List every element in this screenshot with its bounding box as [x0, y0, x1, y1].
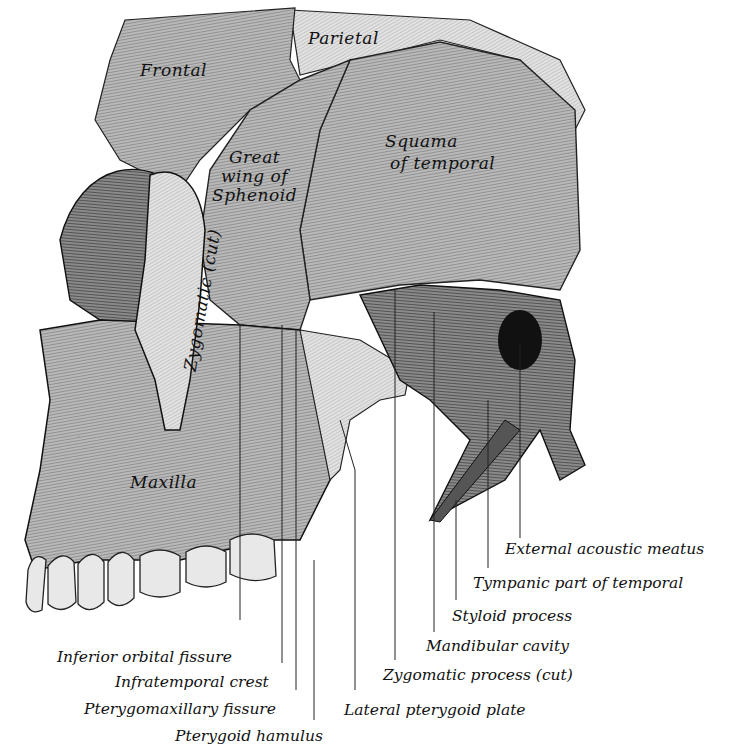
- label-external-acoustic-meatus: External acoustic meatus: [505, 540, 704, 558]
- label-great-wing-line2: wing of: [212, 167, 297, 186]
- label-squama-temporal: Squama of temporal: [385, 130, 495, 174]
- label-great-wing-line1: Great: [212, 148, 297, 167]
- label-great-wing-line3: Sphenoid: [212, 186, 297, 205]
- label-lateral-pterygoid-plate: Lateral pterygoid plate: [344, 701, 526, 719]
- skull-drawing: [0, 0, 735, 751]
- label-frontal: Frontal: [140, 60, 207, 80]
- label-maxilla: Maxilla: [130, 472, 197, 492]
- label-squama-line1: Squama: [385, 130, 495, 152]
- label-tympanic-part-of-temporal: Tympanic part of temporal: [473, 574, 683, 592]
- label-styloid-process: Styloid process: [452, 607, 572, 625]
- label-parietal: Parietal: [308, 28, 379, 48]
- label-pterygoid-hamulus: Pterygoid hamulus: [175, 727, 323, 745]
- skull-infratemporal-illustration: Frontal Parietal Great wing of Sphenoid …: [0, 0, 735, 751]
- label-infratemporal-crest: Infratemporal crest: [115, 673, 269, 691]
- label-inferior-orbital-fissure: Inferior orbital fissure: [57, 648, 232, 666]
- label-mandibular-cavity: Mandibular cavity: [426, 637, 569, 655]
- label-zygomatic-process-cut: Zygomatic process (cut): [383, 666, 573, 684]
- label-pterygomaxillary-fissure: Pterygomaxillary fissure: [84, 700, 276, 718]
- label-squama-line2: of temporal: [385, 152, 495, 174]
- label-great-wing-sphenoid: Great wing of Sphenoid: [212, 148, 297, 205]
